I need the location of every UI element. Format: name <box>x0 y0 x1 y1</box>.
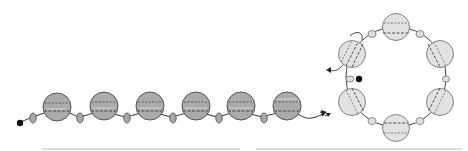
large-bead <box>273 92 301 120</box>
large-bead <box>90 92 118 120</box>
small-bead <box>261 113 267 123</box>
small-bead <box>30 113 36 123</box>
small-bead <box>416 118 424 125</box>
large-bead <box>339 88 366 116</box>
ring-panel <box>256 14 462 150</box>
small-bead <box>77 113 83 123</box>
large-bead-first <box>339 41 366 68</box>
large-bead <box>383 115 410 142</box>
small-bead <box>368 118 376 125</box>
small-bead <box>216 113 222 123</box>
small-bead <box>346 76 354 82</box>
large-bead <box>427 88 454 116</box>
small-bead <box>416 31 424 38</box>
small-bead <box>124 113 130 123</box>
small-bead <box>368 31 376 38</box>
arrowhead-icon <box>326 67 331 73</box>
small-bead <box>443 76 450 82</box>
large-bead <box>427 41 454 68</box>
large-bead <box>43 93 71 121</box>
large-bead <box>227 92 255 120</box>
small-bead <box>170 113 176 123</box>
bead-diagram: Bead stringing steps <box>0 0 468 151</box>
stop-bead <box>17 120 23 126</box>
large-bead <box>182 92 210 120</box>
large-bead <box>383 14 410 41</box>
large-bead <box>136 92 164 120</box>
stop-bead <box>356 76 362 82</box>
straight-strand-panel <box>17 92 327 149</box>
